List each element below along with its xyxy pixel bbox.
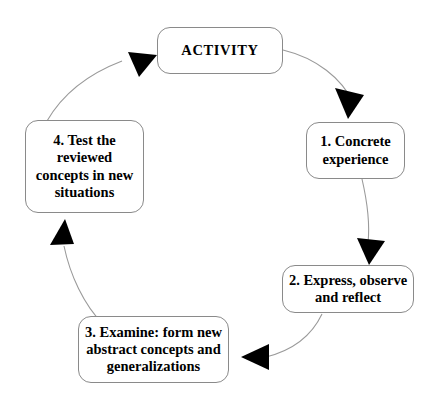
node-step-3-label: 3. Examine: form new abstract concepts a… [80, 324, 227, 375]
node-step-3: 3. Examine: form new abstract concepts a… [78, 316, 229, 383]
node-step-1: 1. Concrete experience [306, 122, 405, 179]
cycle-diagram: ACTIVITY 1. Concrete experience 2. Expre… [0, 0, 440, 405]
connector-step-2-to-step-3-arc [266, 314, 322, 357]
connector-step-1-to-step-2-arrowhead [357, 238, 385, 265]
node-step-2: 2. Express, observe and reflect [282, 265, 414, 313]
node-activity: ACTIVITY [157, 27, 283, 74]
connector-step-1-to-step-2-arc [362, 179, 369, 243]
node-step-4: 4. Test the reviewed concepts in new sit… [25, 120, 144, 213]
connector-activity-to-step-1-arrowhead [335, 88, 364, 119]
connector-activity-to-step-1 [283, 50, 364, 119]
connector-step-3-to-step-4-arrowhead [50, 219, 74, 245]
connector-step-4-to-activity-arrowhead [128, 52, 157, 77]
connector-step-4-to-activity-arc [47, 61, 122, 121]
connector-step-3-to-step-4-arc [64, 246, 103, 324]
node-activity-label: ACTIVITY [176, 42, 263, 59]
connector-step-1-to-step-2 [357, 179, 385, 265]
node-step-1-label: 1. Concrete experience [315, 133, 396, 167]
connector-step-4-to-activity [47, 52, 157, 121]
node-step-2-label: 2. Express, observe and reflect [284, 272, 412, 306]
node-step-4-label: 4. Test the reviewed concepts in new sit… [31, 132, 138, 200]
connector-step-3-to-step-4 [50, 219, 103, 324]
connector-step-2-to-step-3-arrowhead [241, 344, 269, 370]
connector-step-2-to-step-3 [241, 314, 322, 370]
